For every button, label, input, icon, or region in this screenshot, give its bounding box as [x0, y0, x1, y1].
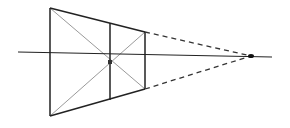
perspective-diagram	[0, 0, 290, 128]
vanishing-point	[248, 54, 254, 58]
center-point	[108, 60, 112, 64]
